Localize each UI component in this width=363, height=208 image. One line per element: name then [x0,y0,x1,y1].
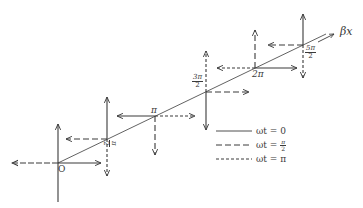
legend-item-solid: ωt = 0 [256,127,286,136]
node-2pi-vectors [217,30,297,68]
wave-phasor-diagram [0,0,363,208]
node-label-0: O [58,165,65,174]
node-label-pi-half: π 2 [102,140,117,147]
legend-fraction: π2 [280,139,286,152]
node-label-3pi-half: 3π 2 [192,74,203,89]
frac-denominator: 2 [192,82,203,89]
node-0-vectors [12,124,101,202]
frac-denominator: 2 [102,140,109,147]
node-pi-vectors [117,116,195,155]
node-pi-half-vectors [66,97,107,176]
legend-item-long-dash: ωt = π2 [256,139,286,152]
legend-prefix: ωt = [256,140,280,150]
frac-denominator: 2 [305,53,316,60]
legend-item-short-dash: ωt = π [256,155,286,164]
frac-denominator: 2 [280,146,286,152]
legend-lines [216,131,252,159]
node-label-pi: π [151,106,157,115]
node-3pi-half-vectors [206,51,249,130]
frac-numerator: π [109,140,117,147]
axis-label-beta-x: βx [340,26,353,37]
node-label-5pi-half: 5π 2 [305,45,316,60]
node-label-2pi: 2π [252,70,264,79]
beta-x-axis-arrow [318,34,334,42]
